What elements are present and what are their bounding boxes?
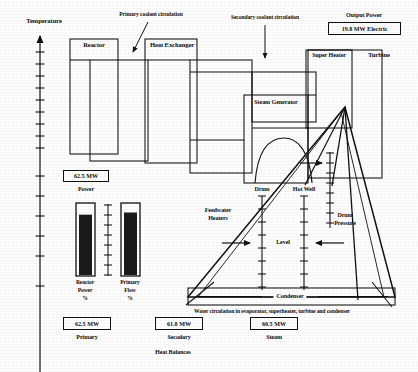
steam-balance-readout: 60.5 MW [250,317,298,330]
reactor-power-gauge-label-line3: % [82,296,88,302]
reactor-power-readout-caption: Power [78,186,94,192]
reactor-power-gauge-fill [79,215,92,275]
primary-annotation-arrow [133,22,148,52]
primary-flow-gauge-label-line1: Primary [120,280,140,286]
turbine-label: Turbine [368,52,390,59]
condenser-label: Condenser [273,293,306,299]
drum-pressure-label-line2: Pressure [334,220,356,226]
temperature-axis [36,36,45,372]
drum-scale-label: Drum [254,186,269,192]
primary-circulation-annotation: Primary coolant circulation [119,12,182,18]
primary-balance-caption: Primary [76,334,97,340]
heat-exchanger-label: Heat Exchanger [150,42,194,49]
hot-well-scale-label: Hot Well [293,186,315,192]
secondary-balance-caption: Secodary [167,334,190,340]
primary-balance-readout: 62.5 MW [63,317,111,330]
feedwater-heaters-label-line2: Heaters [208,215,228,221]
super-heater-label: Super Heater [312,52,346,58]
level-label: Level [276,239,290,245]
output-power-readout: 19.8 MW Electric [328,22,401,35]
feedwater-heaters-label-line1: Feedwater [205,207,232,213]
temperature-axis-label: Temperature [26,18,62,25]
output-power-title: Output Power [346,12,382,18]
drum-pressure-scale [326,152,334,228]
reactor-label: Reactor [83,42,105,49]
primary-loop-inner [90,60,148,161]
heat-balances-caption: Heat Balances [155,349,191,355]
reactor-block [70,39,118,154]
secondary-balance-readout: 61.8 MW [155,317,203,330]
primary-flow-gauge-label-line2: Flow [124,288,135,294]
reactor-power-gauge-label-line1: Reactor [76,280,94,286]
reactor-power-gauge-label-line2: Power [78,288,93,294]
primary-flow-gauge-label-line3: % [127,296,133,302]
hot-well-scale [300,196,308,290]
diagram-canvas: Temperature Primary coolant circulation … [0,0,418,372]
secondary-feed-block [190,60,252,173]
reactor-power-readout: 62.5 MW [63,170,109,182]
drum-pressure-label-line1: Drum [337,212,352,218]
expansion-triangle-outer [188,107,395,297]
heat-exchanger-block [145,39,197,163]
primary-flow-gauge-fill [124,213,137,275]
secondary-circulation-annotation: Secondary coolant circulation [231,15,299,21]
steam-generator-label: Steam Generator [254,99,297,105]
steam-balance-caption: Steam [266,334,282,340]
gauge-center-scale [104,204,112,276]
figure-caption: Water circulation in evaporator, superhe… [194,309,350,315]
